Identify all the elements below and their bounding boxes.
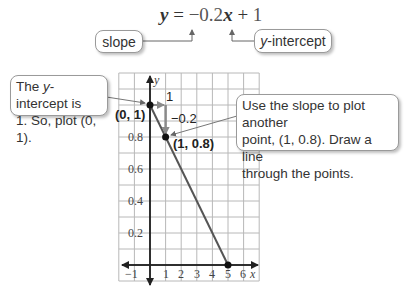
y-intercept-label-text: -intercept (267, 33, 325, 49)
slope-label: slope (95, 30, 143, 53)
y-intercept-label-var: y (260, 33, 267, 49)
point-5-0 (225, 262, 232, 269)
x-tick: 2 (178, 267, 184, 281)
point-label-0-1: (0, 1) (115, 107, 145, 122)
callout-line: Use the slope to plot another (242, 97, 393, 131)
point-1-0.8 (162, 134, 169, 141)
callout-line: point, (1, 0.8). Draw a line (242, 131, 393, 165)
x-tick: 4 (209, 267, 215, 281)
y-tick: 0.2 (128, 226, 143, 240)
callout-line: 1. So, plot (0, 1). (16, 112, 102, 146)
x-tick: 1 (163, 267, 169, 281)
x-tick: 5 (225, 267, 231, 281)
point-0-1 (147, 102, 154, 109)
x-tick: 3 (194, 267, 200, 281)
run-label: 1 (166, 89, 173, 104)
callout-line: The y-intercept is (16, 78, 102, 112)
slope-connector (143, 30, 192, 41)
y-axis-label: y (153, 73, 160, 87)
y-tick: 0.8 (128, 130, 143, 144)
y-intercept-label: y-intercept (254, 29, 332, 53)
slope-label-text: slope (102, 34, 135, 50)
intercept-connector (232, 30, 254, 41)
rise-label: −0.2 (171, 111, 197, 126)
x-tick: 6 (240, 267, 246, 281)
x-tick: −1 (125, 267, 138, 281)
x-axis-label: x (249, 267, 256, 281)
callout-line: through the points. (242, 165, 393, 182)
y-tick: 0.6 (128, 162, 143, 176)
point-label-1-0.8: (1, 0.8) (173, 136, 214, 151)
slope-callout: Use the slope to plot another point, (1,… (236, 94, 399, 151)
y-tick: 0.4 (128, 194, 143, 208)
y-intercept-callout: The y-intercept is 1. So, plot (0, 1). (10, 75, 108, 116)
